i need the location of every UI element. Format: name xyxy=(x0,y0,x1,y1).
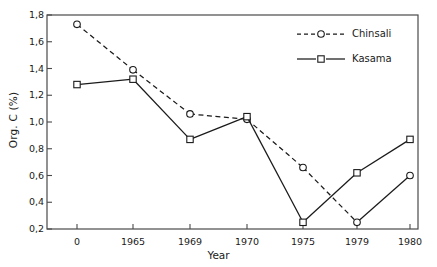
data-point-chinsali xyxy=(354,219,361,226)
series-segment-kasama xyxy=(303,173,357,222)
legend-marker-kasama xyxy=(318,56,324,62)
data-point-chinsali xyxy=(74,21,81,28)
legend-marker-chinsali xyxy=(318,31,325,38)
data-point-kasama xyxy=(244,113,250,119)
data-point-kasama xyxy=(300,219,306,225)
data-point-kasama xyxy=(130,76,136,82)
series-segment-chinsali xyxy=(357,176,410,223)
data-point-kasama xyxy=(354,170,360,176)
series-segment-kasama xyxy=(77,79,133,84)
data-point-kasama xyxy=(74,81,80,87)
series-segment-kasama xyxy=(133,79,190,139)
data-point-chinsali xyxy=(187,111,194,118)
data-point-chinsali xyxy=(130,67,137,74)
series-segment-kasama xyxy=(247,117,303,223)
series-segment-chinsali xyxy=(247,119,303,167)
series-segment-chinsali xyxy=(190,114,247,119)
series-segment-kasama xyxy=(190,117,247,140)
data-point-kasama xyxy=(187,136,193,142)
data-point-kasama xyxy=(407,136,413,142)
series-segment-chinsali xyxy=(133,70,190,114)
chart-figure: Org. C (%) 0,20,40,60,81,01,21,41,61,8 0… xyxy=(0,0,437,267)
plot-area xyxy=(0,0,437,267)
data-point-chinsali xyxy=(300,164,307,171)
series-segment-kasama xyxy=(357,139,410,172)
series-segment-chinsali xyxy=(77,24,133,69)
data-point-chinsali xyxy=(407,172,414,179)
